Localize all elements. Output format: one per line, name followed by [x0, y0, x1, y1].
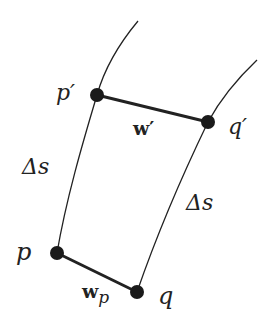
point-q — [130, 285, 144, 299]
left-curve — [57, 21, 138, 253]
label-delta-s-right: Δs — [185, 190, 213, 215]
label-w-p: wp — [81, 280, 109, 307]
label-w-p-sub: p — [98, 287, 109, 307]
label-w-p-main: w — [81, 280, 99, 302]
point-q-prime — [201, 115, 215, 129]
label-delta-s-left: Δs — [21, 154, 49, 179]
label-q: q — [158, 282, 173, 310]
label-p: p — [16, 238, 31, 266]
label-w-prime: w′ — [132, 117, 154, 139]
right-curve — [137, 60, 257, 292]
point-p — [50, 246, 64, 260]
geodesic-parallel-transport-diagram: p′ w′ q′ Δs Δs p wp q — [0, 0, 269, 324]
point-p-prime — [90, 88, 104, 102]
label-q-prime: q′ — [228, 114, 247, 139]
label-p-prime: p′ — [56, 80, 75, 105]
